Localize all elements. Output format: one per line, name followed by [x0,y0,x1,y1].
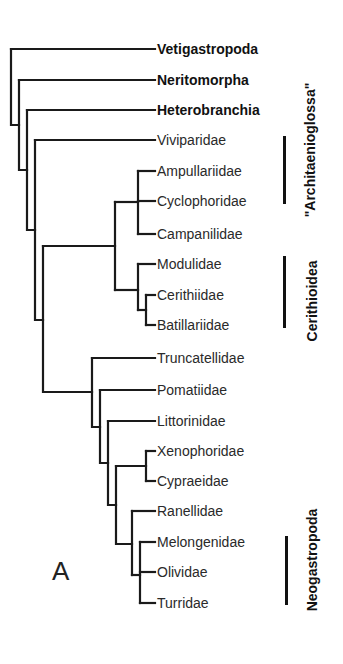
clade-label-cerithioidea: Cerithioidea [304,251,320,351]
taxon-melongenidae: Melongenidae [157,534,245,550]
clade-label-neogastropoda: Neogastropoda [304,504,320,616]
panel-label: A [52,556,69,587]
taxon-vetigastropoda: Vetigastropoda [157,41,258,57]
taxon-ampullariidae: Ampullariidae [157,163,242,179]
taxon-cypraeidae: Cypraeidae [157,473,229,489]
taxon-ranellidae: Ranellidae [157,503,223,519]
taxon-turridae: Turridae [157,595,209,611]
node-10 [116,466,132,544]
taxon-viviparidae: Viviparidae [157,132,226,148]
node-2 [19,80,27,170]
node-8 [100,390,108,463]
taxon-cerithiidae: Cerithiidae [157,287,224,303]
node-9 [108,421,116,505]
taxon-campanilidae: Campanilidae [157,226,243,242]
node-4 [35,140,43,320]
taxon-pomatiidae: Pomatiidae [157,382,227,398]
taxon-neritomorpha: Neritomorpha [157,72,249,88]
clade-bar-cerithioidea [283,256,286,328]
node-5 [43,246,92,392]
node-7 [92,358,100,427]
taxon-heterobranchia: Heterobranchia [157,102,260,118]
taxon-batillariidae: Batillariidae [157,317,229,333]
node-root [11,49,19,125]
taxon-modulidae: Modulidae [157,256,222,272]
node-3 [27,110,35,230]
taxon-cyclophoridae: Cyclophoridae [157,193,247,209]
taxon-xenophoridae: Xenophoridae [157,443,244,459]
taxon-littorinidae: Littorinidae [157,413,226,429]
clade-label-architaenioglossa: "Architaenioglossa" [302,75,318,225]
clade-bar-neogastropoda [285,536,288,605]
taxon-truncatellidae: Truncatellidae [157,350,244,366]
taxon-olividae: Olividae [157,564,208,580]
clade-bar-architaenioglossa [283,136,286,204]
